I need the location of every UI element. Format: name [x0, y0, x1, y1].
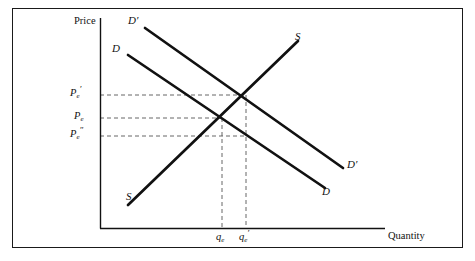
- tick-prime: ′: [80, 84, 82, 94]
- y-tick-label-price-mid: Pe: [74, 110, 84, 121]
- curve-label-demand-shifted-top: D′: [128, 14, 138, 26]
- curve-label-demand-top: D: [112, 42, 120, 54]
- curve-label-supply-top: S: [295, 30, 301, 42]
- x-axis-title-quantity: Quantity: [388, 230, 425, 241]
- curve-label-supply-bottom: S: [126, 190, 132, 202]
- tick-prime: ′: [248, 228, 250, 238]
- tick-subscript: e: [80, 115, 83, 123]
- figure-root: Price Quantity D′ D D′ D S S Pe′ Pe Pe″ …: [0, 0, 475, 261]
- curve-label-demand-shifted-right: D′: [347, 158, 357, 170]
- x-tick-label-quantity-low: qe: [216, 231, 224, 242]
- y-tick-label-price-high: Pe′: [70, 87, 82, 98]
- tick-subscript: e: [244, 236, 247, 244]
- y-axis-title-price: Price: [74, 15, 96, 26]
- tick-prime: ″: [80, 125, 84, 135]
- x-tick-label-quantity-high: qe′: [239, 231, 249, 242]
- tick-subscript: e: [221, 236, 224, 244]
- curve-label-demand-right: D: [322, 185, 330, 197]
- y-tick-label-price-low: Pe″: [70, 128, 83, 139]
